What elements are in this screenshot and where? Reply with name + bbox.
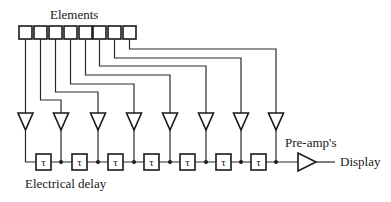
element-2: [34, 26, 47, 39]
element-7: [108, 26, 121, 39]
preamp-triangle-icon: [298, 153, 316, 171]
elements-label: Elements: [50, 7, 98, 22]
wire-element-3: [56, 39, 99, 113]
tau-symbol: τ: [113, 156, 118, 168]
wire-element-8: [130, 39, 277, 113]
element-8: [123, 26, 136, 39]
amplifier-triangle-icon: [163, 113, 178, 130]
junction-dot: [204, 160, 208, 164]
tau-symbol: τ: [221, 156, 226, 168]
element-4: [64, 26, 77, 39]
element-3: [49, 26, 62, 39]
amplifier-triangle-icon: [91, 113, 106, 130]
electrical-delay-label: Electrical delay: [25, 176, 107, 191]
junction-dot: [239, 160, 243, 164]
amplifier-triangle-icon: [18, 113, 33, 130]
tau-symbol: τ: [149, 156, 154, 168]
wire-element-6: [100, 39, 207, 113]
junction-dot: [168, 160, 172, 164]
junction-dot: [96, 160, 100, 164]
tau-symbol: τ: [185, 156, 190, 168]
display-label: Display: [340, 154, 381, 169]
amplifier-triangle-icon: [234, 113, 249, 130]
beamforming-delay-diagram: Elements: [0, 0, 391, 202]
tau-symbol: τ: [41, 156, 46, 168]
tau-symbol: τ: [77, 156, 82, 168]
wire-element-4: [71, 39, 135, 113]
amplifier-triangle-icon: [269, 113, 284, 130]
junction-dot: [274, 160, 278, 164]
tau-symbol: τ: [256, 156, 261, 168]
amplifier-triangle-icon: [54, 113, 69, 130]
amplifier-triangle-icon: [199, 113, 214, 130]
wire-element-2: [41, 39, 62, 113]
element-1: [19, 26, 32, 39]
amplifier-triangle-icon: [127, 113, 142, 130]
element-array: [19, 26, 136, 39]
element-5: [79, 26, 92, 39]
amp-stem-1: [26, 130, 37, 162]
element-6: [93, 26, 106, 39]
junction-dot: [59, 160, 63, 164]
preamp-label: Pre-amp's: [285, 135, 336, 150]
element-routing-wires: [26, 39, 277, 113]
amplifiers: [18, 113, 284, 130]
junction-dot: [132, 160, 136, 164]
